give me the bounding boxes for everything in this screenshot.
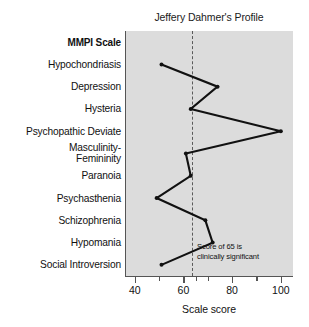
chart-figure: Jeffery Dahmer's Profile MMPI ScaleHypoc… bbox=[0, 0, 309, 327]
profile-line-series bbox=[125, 31, 293, 276]
data-point-schizophrenia bbox=[203, 218, 207, 222]
x-tick-60 bbox=[183, 277, 184, 283]
category-label-masculinity: Masculinity-Femininity bbox=[0, 143, 121, 164]
data-point-masculinity bbox=[184, 152, 188, 156]
category-label-psychasthenia: Psychasthenia bbox=[0, 193, 121, 204]
annotation-line-1: Score of 65 is bbox=[197, 242, 259, 252]
data-point-depression bbox=[216, 85, 220, 89]
x-tick-80 bbox=[232, 277, 233, 283]
category-axis-header: MMPI Scale bbox=[0, 37, 121, 48]
category-axis-labels: MMPI ScaleHypochondriasisDepressionHyste… bbox=[0, 31, 121, 276]
category-label-depression: Depression bbox=[0, 81, 121, 92]
x-axis-line bbox=[125, 276, 293, 277]
x-tick-40-label: 40 bbox=[129, 284, 141, 296]
x-tick-40 bbox=[135, 277, 136, 283]
category-label-schizophrenia: Schizophrenia bbox=[0, 215, 121, 226]
category-label-masculinity-line-2: Femininity bbox=[0, 154, 121, 165]
x-minor-tick-65 bbox=[196, 277, 197, 281]
category-label-hysteria: Hysteria bbox=[0, 103, 121, 114]
x-tick-100 bbox=[281, 277, 282, 283]
category-label-masculinity-line-1: Masculinity- bbox=[0, 143, 121, 154]
category-label-social-introversion: Social Introversion bbox=[0, 259, 121, 270]
data-point-hypochondriasis bbox=[160, 62, 164, 66]
category-label-hypomania: Hypomania bbox=[0, 237, 121, 248]
x-tick-80-label: 80 bbox=[226, 284, 238, 296]
profile-polyline bbox=[157, 64, 281, 264]
data-point-paranoia bbox=[189, 174, 193, 178]
x-minor-tick-50 bbox=[159, 277, 160, 281]
x-minor-tick-90 bbox=[256, 277, 257, 281]
x-axis-title: Scale score bbox=[125, 303, 293, 315]
category-label-hypochondriasis: Hypochondriasis bbox=[0, 59, 121, 70]
data-point-social-introversion bbox=[160, 263, 164, 267]
category-label-paranoia: Paranoia bbox=[0, 170, 121, 181]
data-point-psychopathic-deviate bbox=[279, 129, 283, 133]
x-minor-tick-70 bbox=[208, 277, 209, 281]
x-tick-60-label: 60 bbox=[178, 284, 190, 296]
clinical-significance-annotation: Score of 65 is clinically significant bbox=[197, 242, 259, 261]
x-tick-100-label: 100 bbox=[272, 284, 290, 296]
data-point-psychasthenia bbox=[155, 196, 159, 200]
chart-title: Jeffery Dahmer's Profile bbox=[125, 11, 293, 23]
data-point-hysteria bbox=[189, 107, 193, 111]
annotation-line-2: clinically significant bbox=[197, 252, 259, 262]
category-label-psychopathic-deviate: Psychopathic Deviate bbox=[0, 126, 121, 137]
